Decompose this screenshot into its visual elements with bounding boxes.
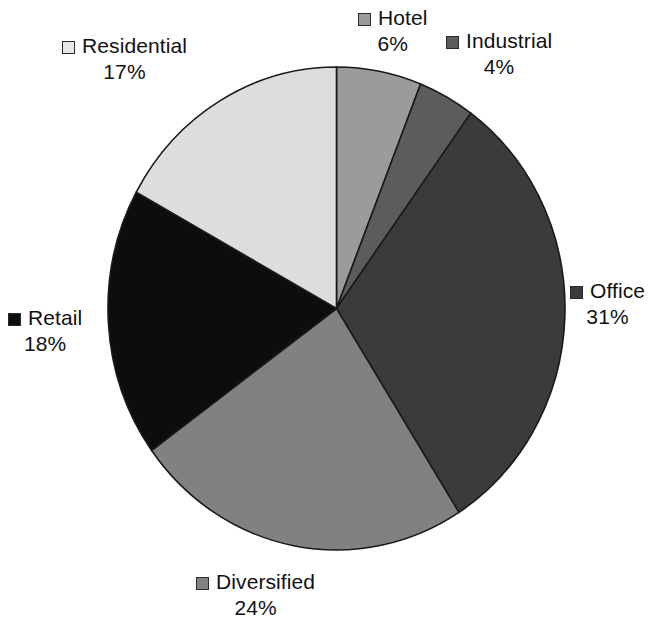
legend-swatch-office-icon xyxy=(570,286,583,299)
pie-label-diversified-text: Diversified xyxy=(216,570,315,595)
legend-swatch-retail-icon xyxy=(8,313,21,326)
pie-slice-group xyxy=(108,67,565,550)
pie-label-residential: Residential 17% xyxy=(62,34,187,85)
pie-label-retail-text: Retail xyxy=(28,306,82,331)
legend-swatch-industrial-icon xyxy=(446,36,459,49)
pie-label-hotel-text: Hotel xyxy=(378,6,428,31)
pie-label-industrial-percent: 4% xyxy=(446,55,552,80)
legend-swatch-diversified-icon xyxy=(196,577,209,590)
pie-label-residential-percent: 17% xyxy=(62,60,187,85)
pie-label-residential-text: Residential xyxy=(82,34,187,59)
legend-swatch-residential-icon xyxy=(62,41,75,54)
pie-label-diversified-percent: 24% xyxy=(196,596,315,621)
pie-label-office: Office 31% xyxy=(570,279,645,330)
pie-label-industrial-text: Industrial xyxy=(466,29,552,54)
pie-label-hotel: Hotel 6% xyxy=(358,6,428,57)
pie-label-office-text: Office xyxy=(590,279,645,304)
pie-chart-figure: Hotel 6% Industrial 4% Residential 17% O… xyxy=(0,0,669,626)
pie-label-retail-percent: 18% xyxy=(8,332,82,357)
pie-label-retail: Retail 18% xyxy=(8,306,82,357)
pie-label-office-percent: 31% xyxy=(570,305,645,330)
pie-label-industrial: Industrial 4% xyxy=(446,29,552,80)
legend-swatch-hotel-icon xyxy=(358,13,371,26)
pie-label-diversified: Diversified 24% xyxy=(196,570,315,621)
pie-label-hotel-percent: 6% xyxy=(358,32,428,57)
pie-chart-canvas xyxy=(0,0,669,626)
